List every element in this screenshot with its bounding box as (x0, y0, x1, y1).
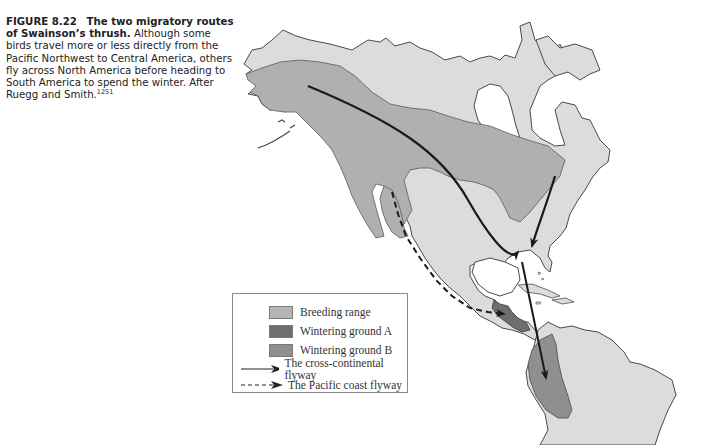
dashed-arrow-icon (241, 380, 283, 390)
legend-item-wintering-ground-b: Wintering ground B (269, 343, 392, 357)
breeding-range-swatch (269, 306, 293, 319)
legend-item-breeding-range: Breeding range (269, 305, 371, 319)
cuba (518, 284, 560, 298)
legend-item-cross-continental: The cross-continental flyway (241, 362, 407, 376)
legend-label: Breeding range (300, 306, 371, 318)
gulf-of-mexico (472, 258, 520, 296)
legend-item-wintering-ground-a: Wintering ground A (269, 324, 392, 338)
hispaniola (552, 298, 574, 304)
legend-label: Wintering ground A (300, 325, 392, 337)
wintering-ground-a-swatch (269, 325, 293, 338)
aleutian-islands (258, 120, 295, 148)
legend-label: The Pacific coast flyway (288, 379, 402, 391)
wintering-ground-b-swatch (269, 344, 293, 357)
solid-arrow-icon (241, 364, 279, 374)
legend-label: Wintering ground B (300, 344, 392, 356)
map-legend: Breeding range Wintering ground A Winter… (232, 293, 408, 393)
legend-item-pacific-coast: The Pacific coast flyway (241, 378, 402, 392)
